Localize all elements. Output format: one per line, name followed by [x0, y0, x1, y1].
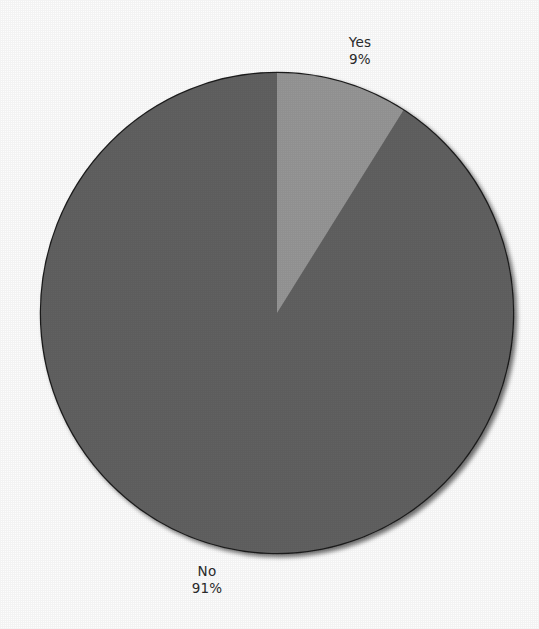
pie-chart-canvas: [0, 0, 539, 629]
pie-label-yes: Yes 9%: [318, 34, 402, 68]
pie-label-no-percent: 91%: [165, 580, 249, 597]
pie-label-no: No 91%: [165, 563, 249, 597]
pie-label-yes-percent: 9%: [318, 51, 402, 68]
pie-chart-figure: Yes 9% No 91%: [0, 0, 539, 629]
pie-label-yes-name: Yes: [318, 34, 402, 51]
pie-label-no-name: No: [165, 563, 249, 580]
